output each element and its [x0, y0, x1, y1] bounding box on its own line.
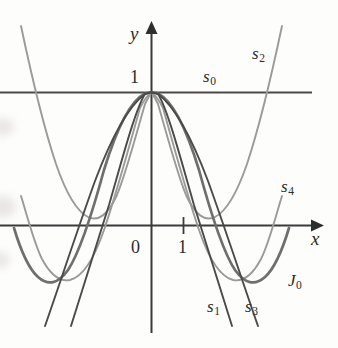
- axes-group: [0, 21, 324, 333]
- y-tick-label-1: 1: [130, 68, 139, 86]
- curve-label-J0: J0: [288, 272, 302, 292]
- curve-label-s0-base: s: [203, 67, 210, 86]
- curve-label-s2-base: s: [252, 44, 259, 63]
- curve-label-s3: s3: [245, 298, 258, 318]
- y-axis-label: y: [130, 24, 138, 43]
- curve-label-s4-sub: 4: [288, 185, 294, 198]
- curve-label-s2: s2: [252, 45, 265, 65]
- bessel-partial-sums-figure: y x 1 0 1 s0 s2 s4 J0 s1 s3: [0, 0, 338, 348]
- x-tick-label-1: 1: [178, 238, 187, 256]
- y-axis-arrowhead: [146, 21, 158, 34]
- curve-label-J0-sub: 0: [296, 279, 302, 292]
- curve-label-s4-base: s: [281, 177, 288, 196]
- origin-label: 0: [131, 238, 140, 256]
- curve-label-s3-sub: 3: [252, 305, 258, 318]
- curve-label-J0-base: J: [288, 271, 296, 290]
- curve-label-s1-sub: 1: [214, 305, 220, 318]
- curve-label-s2-sub: 2: [259, 52, 265, 65]
- plot-canvas: [0, 0, 338, 348]
- curve-label-s1: s1: [207, 298, 220, 318]
- curve-label-s4: s4: [281, 178, 294, 198]
- curve-label-s1-base: s: [207, 297, 214, 316]
- curve-label-s0-sub: 0: [210, 75, 216, 88]
- curve-label-s0: s0: [203, 68, 216, 88]
- curve-label-s3-base: s: [245, 297, 252, 316]
- x-axis-label: x: [311, 229, 319, 248]
